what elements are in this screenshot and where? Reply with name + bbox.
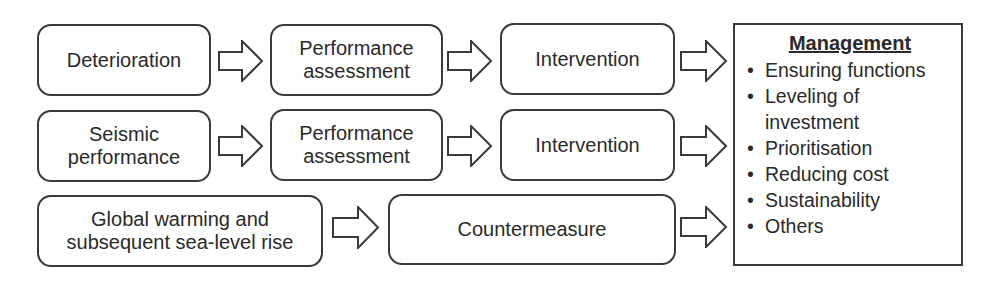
box-label-line: Global warming and — [67, 208, 294, 231]
box-label: Countermeasure — [458, 218, 607, 240]
bullet-icon: • — [747, 187, 754, 213]
box-label-line: Seismic — [68, 123, 180, 146]
bullet-icon: • — [747, 57, 754, 83]
list-item-text: Sustainability — [765, 189, 880, 211]
list-item: •Prioritisation — [747, 135, 953, 161]
arrow-right-icon — [218, 125, 264, 167]
bullet-icon: • — [747, 135, 754, 161]
arrow-right-icon — [680, 40, 728, 82]
management-box: Management •Ensuring functions •Leveling… — [733, 23, 963, 266]
list-item: •Leveling ofinvestment — [747, 83, 953, 135]
performance-assessment-box-2: Performance assessment — [270, 109, 443, 181]
arrow-right-icon — [447, 125, 493, 167]
box-label-line: Performance — [299, 37, 414, 60]
seismic-performance-box: Seismic performance — [37, 110, 211, 182]
box-label: Intervention — [535, 48, 640, 70]
arrow-right-icon — [680, 206, 728, 248]
management-title: Management — [747, 31, 953, 55]
countermeasure-box: Countermeasure — [388, 194, 676, 265]
list-item-text: investment — [765, 109, 953, 135]
management-list: •Ensuring functions •Leveling ofinvestme… — [747, 57, 953, 239]
list-item: •Ensuring functions — [747, 57, 953, 83]
global-warming-box: Global warming and subsequent sea-level … — [37, 195, 323, 267]
list-item-text: Reducing cost — [765, 163, 889, 185]
arrow-right-icon — [332, 206, 380, 249]
list-item: •Sustainability — [747, 187, 953, 213]
list-item: •Others — [747, 213, 953, 239]
box-label-line: assessment — [299, 60, 414, 83]
list-item-text: Others — [765, 215, 824, 237]
box-label-line: performance — [68, 146, 180, 169]
arrow-right-icon — [680, 125, 728, 167]
performance-assessment-box-1: Performance assessment — [270, 24, 443, 96]
list-item-text: Prioritisation — [765, 137, 872, 159]
bullet-icon: • — [747, 83, 754, 109]
list-item-text: Leveling of — [765, 83, 953, 109]
box-label-line: assessment — [299, 145, 414, 168]
list-item-text: Ensuring functions — [765, 59, 925, 81]
bullet-icon: • — [747, 213, 754, 239]
intervention-box-2: Intervention — [500, 109, 675, 181]
arrow-right-icon — [447, 40, 493, 82]
box-label: Intervention — [535, 134, 640, 156]
arrow-right-icon — [218, 40, 264, 82]
deterioration-box: Deterioration — [37, 24, 211, 96]
box-label-line: Performance — [299, 122, 414, 145]
box-label-line: subsequent sea-level rise — [67, 231, 294, 254]
box-label: Deterioration — [67, 49, 182, 71]
bullet-icon: • — [747, 161, 754, 187]
intervention-box-1: Intervention — [500, 23, 675, 95]
list-item: •Reducing cost — [747, 161, 953, 187]
